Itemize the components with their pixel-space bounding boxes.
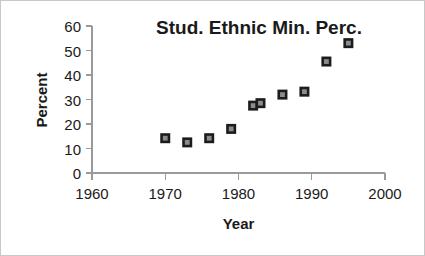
y-axis-tick-labels: 60 50 40 30 20 10 0 <box>64 18 81 182</box>
data-point <box>257 99 264 106</box>
x-tick-label: 1970 <box>149 185 182 202</box>
x-tick-label: 1980 <box>222 185 255 202</box>
y-tick-label: 0 <box>73 165 81 182</box>
data-point <box>206 135 213 142</box>
x-tick-label: 1990 <box>295 185 328 202</box>
data-point <box>227 125 234 132</box>
y-tick-label: 60 <box>64 18 81 35</box>
data-point <box>184 139 191 146</box>
y-tick-label: 50 <box>64 43 81 60</box>
data-point <box>162 135 169 142</box>
page-title: Stud. Ethnic Min. Perc. <box>156 17 362 38</box>
data-point <box>279 91 286 98</box>
x-axis-ticks <box>92 173 385 180</box>
chart-container: Stud. Ethnic Min. Perc. 60 50 40 30 20 1… <box>0 0 425 256</box>
data-point <box>301 88 308 95</box>
y-axis-title: Percent <box>33 72 50 127</box>
y-tick-label: 10 <box>64 141 81 158</box>
y-tick-label: 30 <box>64 92 81 109</box>
y-axis-ticks <box>86 26 92 173</box>
x-tick-label: 2000 <box>368 185 401 202</box>
x-tick-label: 1960 <box>75 185 108 202</box>
data-point <box>323 58 330 65</box>
y-tick-label: 40 <box>64 67 81 84</box>
x-axis-title: Year <box>223 215 255 232</box>
data-point <box>345 39 352 46</box>
scatter-plot: Stud. Ethnic Min. Perc. 60 50 40 30 20 1… <box>1 1 425 256</box>
data-point-group <box>162 39 353 146</box>
x-axis-tick-labels: 1960 1970 1980 1990 2000 <box>75 185 401 202</box>
y-tick-label: 20 <box>64 116 81 133</box>
